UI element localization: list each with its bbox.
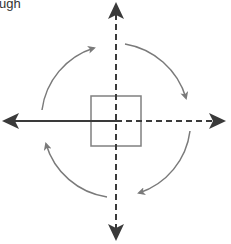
rotation-diagram bbox=[0, 0, 231, 244]
arc-top-right-arrow-icon bbox=[125, 44, 186, 98]
arc-bottom-left-arrow-icon bbox=[46, 144, 107, 197]
arc-bottom-right-arrow-icon bbox=[139, 131, 190, 193]
arc-top-left-arrow-icon bbox=[42, 48, 94, 110]
